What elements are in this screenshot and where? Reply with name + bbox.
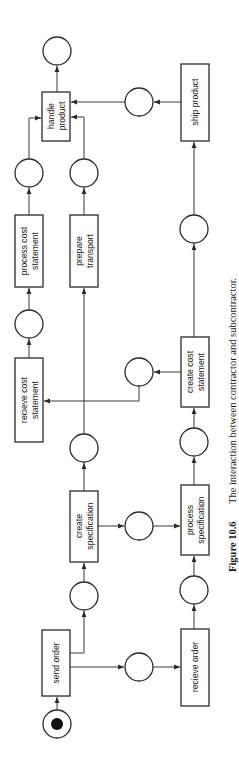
transition-label: process cost bbox=[19, 226, 29, 275]
transition-label: create cost bbox=[185, 350, 195, 393]
arc-p7-to-handle-product bbox=[71, 117, 84, 159]
arc-p6-to-handle-product bbox=[29, 118, 41, 159]
place-p7 bbox=[70, 159, 98, 187]
transition-label: ship product bbox=[190, 78, 200, 125]
transition-label: recieve cost bbox=[19, 376, 29, 422]
transition-recieve-cost-statement: recieve cost statement bbox=[15, 358, 43, 442]
place-p6 bbox=[15, 159, 43, 187]
transition-label: send order bbox=[51, 642, 61, 683]
place-p3 bbox=[180, 576, 208, 604]
place-end bbox=[43, 37, 71, 65]
transition-label: handle bbox=[46, 103, 56, 129]
transition-label: transport bbox=[85, 233, 95, 268]
transition-label: product bbox=[57, 101, 67, 130]
transition-label: statement bbox=[30, 232, 40, 270]
transition-process-cost-statement: process cost statement bbox=[15, 215, 43, 287]
transition-label: create bbox=[74, 514, 84, 538]
transition-ship-product: ship product bbox=[181, 64, 209, 141]
place-p8 bbox=[180, 215, 208, 243]
transition-label: specification bbox=[196, 496, 206, 544]
transition-process-specification: process specification bbox=[181, 485, 209, 555]
transition-send-order: send order bbox=[42, 630, 70, 696]
place-order bbox=[125, 653, 153, 681]
transition-label: process bbox=[185, 505, 195, 535]
place-p5 bbox=[15, 310, 43, 338]
transition-create-specification: create specification bbox=[70, 491, 98, 562]
place-cost-statement bbox=[125, 358, 153, 386]
transition-label: recieve order bbox=[190, 642, 200, 692]
transition-recieve-order: recieve order bbox=[181, 629, 209, 706]
transition-create-cost-statement: create cost statement bbox=[181, 337, 209, 407]
place-specification bbox=[125, 512, 153, 540]
transition-label: prepare bbox=[74, 236, 84, 266]
petri-net-diagram: send order create specification recieve … bbox=[0, 0, 239, 771]
place-start bbox=[43, 710, 71, 738]
place-p2 bbox=[70, 434, 98, 462]
place-p1 bbox=[70, 582, 98, 610]
figure-caption: Figure 10.6 The interaction between cont… bbox=[227, 278, 238, 572]
transition-label: statement bbox=[196, 353, 206, 391]
place-p4 bbox=[180, 428, 208, 456]
arc-p-cost-to-recieve-cost bbox=[44, 386, 139, 401]
place-product bbox=[125, 88, 153, 116]
figure-number: Figure 10.6 bbox=[227, 521, 238, 572]
arc-send-order-to-p1 bbox=[70, 611, 84, 653]
transition-label: specification bbox=[85, 502, 95, 550]
transition-handle-product: handle product bbox=[42, 92, 70, 141]
transition-prepare-transport: prepare transport bbox=[70, 215, 98, 287]
transition-label: statement bbox=[30, 381, 40, 419]
token-icon bbox=[51, 718, 63, 730]
caption-text: The interaction between contractor and s… bbox=[227, 278, 238, 504]
